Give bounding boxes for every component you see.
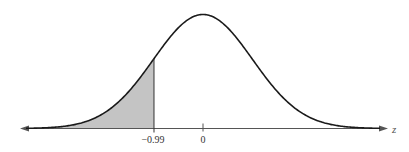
normal-curve-chart: −0.99 0 z [0, 0, 409, 152]
tick-label-neg-0-99: −0.99 [141, 134, 164, 145]
right-arrow-icon [379, 126, 388, 132]
tick-label-zero: 0 [201, 134, 206, 145]
normal-density-curve [26, 15, 380, 129]
axis-label-z: z [391, 123, 397, 135]
shaded-left-tail-area [26, 59, 154, 129]
